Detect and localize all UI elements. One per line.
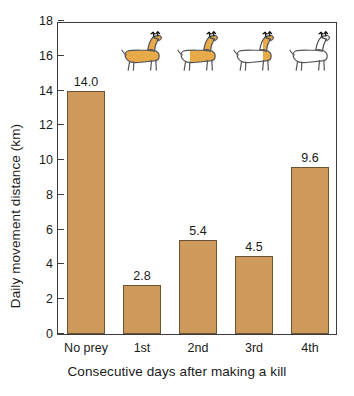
x-axis-tick-label: 3rd xyxy=(245,340,263,356)
y-axis-tick: 6 xyxy=(58,229,64,230)
bar-value-label: 9.6 xyxy=(301,151,318,165)
x-axis-tick-label: 4th xyxy=(301,340,318,356)
bar: 9.6 xyxy=(291,167,329,334)
bar: 5.4 xyxy=(179,240,217,334)
y-axis-tick: 10 xyxy=(58,159,64,160)
x-axis-tick-label: No prey xyxy=(64,340,108,356)
bar-value-label: 2.8 xyxy=(133,269,150,283)
y-axis-title: Daily movement distance (km) xyxy=(0,0,30,396)
x-axis-tick-label: 2nd xyxy=(188,340,209,356)
deer-icon-full xyxy=(119,31,165,73)
bar: 4.5 xyxy=(235,256,273,334)
y-axis-tick-label: 16 xyxy=(39,48,53,64)
x-axis-tick-label: 1st xyxy=(134,340,151,356)
y-axis-title-text: Daily movement distance (km) xyxy=(8,124,23,308)
y-axis-tick-label: 14 xyxy=(39,83,53,99)
y-axis-tick-label: 6 xyxy=(46,222,53,238)
y-axis-tick: 8 xyxy=(58,194,64,195)
bar: 14.0 xyxy=(67,91,105,334)
bar-value-label: 4.5 xyxy=(245,240,262,254)
y-axis-tick: 14 xyxy=(58,90,64,91)
y-axis-tick: 2 xyxy=(58,298,64,299)
y-axis-tick: 12 xyxy=(58,124,64,125)
bar-chart-figure: Daily movement distance (km) 02468101214… xyxy=(0,0,354,396)
x-axis-title: Consecutive days after making a kill xyxy=(0,364,354,379)
y-axis-tick: 18 xyxy=(58,20,64,21)
y-axis-tick-label: 18 xyxy=(39,13,53,29)
y-axis-tick: 0 xyxy=(58,333,64,334)
plot-area: 024681012141618 14.02.85.44.59.6 No prey… xyxy=(57,22,337,335)
y-axis-tick-label: 0 xyxy=(46,326,53,342)
y-axis-tick-label: 10 xyxy=(39,152,53,168)
bar-value-label: 14.0 xyxy=(74,75,98,89)
bar-value-label: 5.4 xyxy=(189,224,206,238)
y-axis-tick-label: 8 xyxy=(46,187,53,203)
deer-icon-empty xyxy=(287,31,333,73)
y-axis-tick: 16 xyxy=(58,55,64,56)
y-axis-tick: 4 xyxy=(58,263,64,264)
y-axis-tick-label: 4 xyxy=(46,256,53,272)
y-axis-tick-label: 2 xyxy=(46,291,53,307)
deer-icon-three-quarter xyxy=(175,31,221,73)
deer-icon-quarter xyxy=(231,31,277,73)
bar: 2.8 xyxy=(123,285,161,334)
y-axis-tick-label: 12 xyxy=(39,117,53,133)
